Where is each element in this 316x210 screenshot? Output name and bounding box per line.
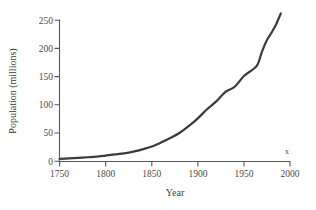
x-tick-label: 1850	[142, 169, 161, 179]
y-tick-label: 0	[48, 157, 53, 167]
x-tick-label: 1900	[188, 169, 207, 179]
y-axis-title: Population (millions)	[7, 48, 19, 133]
x-tick-label: 2000	[281, 169, 300, 179]
y-tick-label: 250	[39, 16, 54, 26]
y-tick-label: 200	[39, 44, 54, 54]
y-tick-label: 150	[39, 72, 54, 82]
x-axis-ticks	[60, 162, 290, 167]
x-tick-label: 1800	[96, 169, 115, 179]
x-tick-label: 1750	[50, 169, 69, 179]
y-tick-label: 100	[39, 100, 54, 110]
y-axis-ticks	[55, 20, 60, 161]
chart-figure: Population (millions) 250 200 150 100 50…	[0, 0, 316, 210]
x-tick-label: 1950	[235, 169, 254, 179]
x-annotation-label: x	[285, 147, 289, 156]
y-tick-label: 50	[44, 128, 54, 138]
x-axis-title: Year	[166, 187, 185, 198]
population-curve	[60, 13, 281, 159]
population-line-chart: Population (millions) 250 200 150 100 50…	[0, 0, 316, 210]
